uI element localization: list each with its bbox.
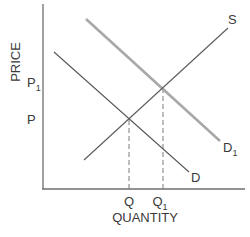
price-label-p: P xyxy=(27,112,36,127)
demand-curve-d1 xyxy=(86,19,220,141)
quantity-label-q: Q xyxy=(124,194,134,209)
supply-curve-s xyxy=(84,28,228,160)
supply-demand-chart: PRICE P1 P Q Q1 QUANTITY S D D1 xyxy=(0,0,250,237)
demand-label-d1: D1 xyxy=(223,140,237,158)
price-label-p1: P1 xyxy=(27,75,41,93)
x-axis-label: QUANTITY xyxy=(112,210,178,225)
demand-label-d: D xyxy=(191,170,200,185)
demand-curve-d xyxy=(54,52,189,172)
chart-svg: PRICE P1 P Q Q1 QUANTITY S D D1 xyxy=(0,0,250,237)
supply-label-s: S xyxy=(228,12,237,27)
y-axis-label: PRICE xyxy=(8,42,23,82)
